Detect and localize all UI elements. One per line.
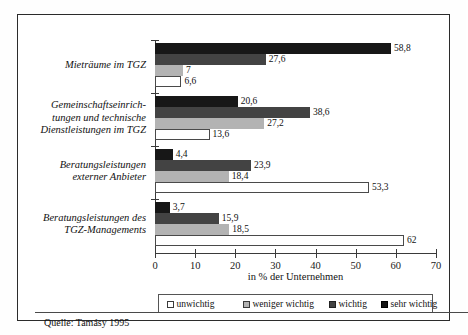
chart-frame: 01020304050607058,827,676,6Mieträume im … bbox=[17, 14, 450, 321]
x-axis-tick bbox=[155, 249, 156, 258]
source-note: Quelle: Tamásy 1995 bbox=[44, 317, 129, 328]
x-axis-tick bbox=[356, 249, 357, 258]
bar-value-label: 13,6 bbox=[213, 129, 230, 140]
x-axis-tick bbox=[235, 249, 236, 258]
bar-sehr-wichtig bbox=[155, 202, 170, 213]
category-label-line: TGZ-Managements bbox=[22, 224, 146, 237]
bar-wichtig bbox=[155, 54, 266, 65]
legend-swatch-icon bbox=[243, 301, 250, 308]
x-axis-tick bbox=[275, 249, 276, 258]
x-axis-tick bbox=[316, 249, 317, 258]
bar-value-label: 7 bbox=[186, 65, 191, 76]
legend-item-wichtig[interactable]: wichtig bbox=[329, 298, 367, 310]
category-label: Beratungsleistungen desTGZ-Managements bbox=[22, 212, 146, 237]
bar-weniger-wichtig bbox=[155, 118, 264, 129]
category-label-line: Dienstleistungen im TGZ bbox=[22, 124, 146, 137]
source-divider bbox=[35, 312, 468, 313]
x-axis-tick-label: 50 bbox=[341, 260, 371, 271]
category-label: Mieträume im TGZ bbox=[22, 59, 146, 72]
legend-item-unwichtig[interactable]: unwichtig bbox=[167, 298, 215, 310]
bar-sehr-wichtig bbox=[155, 96, 238, 107]
bar-value-label: 18,5 bbox=[232, 224, 249, 235]
bar-value-label: 62 bbox=[407, 235, 417, 246]
legend-label: wichtig bbox=[339, 299, 368, 309]
y-axis-tick bbox=[151, 146, 159, 147]
category-label-line: Mieträume im TGZ bbox=[22, 59, 146, 72]
legend-swatch-icon bbox=[381, 301, 388, 308]
x-axis-title: in % der Unternehmen bbox=[155, 271, 436, 282]
bar-value-label: 38,6 bbox=[313, 107, 330, 118]
legend-label: weniger wichtig bbox=[253, 299, 314, 309]
bar-value-label: 18,4 bbox=[232, 171, 249, 182]
y-axis-tick bbox=[151, 40, 159, 41]
bar-unwichtig bbox=[155, 235, 404, 246]
category-label-line: externer Anbieter bbox=[22, 171, 146, 184]
legend-item-weniger-wichtig[interactable]: weniger wichtig bbox=[243, 298, 314, 310]
bar-sehr-wichtig bbox=[155, 149, 173, 160]
y-axis-tick bbox=[151, 199, 159, 200]
bar-unwichtig bbox=[155, 76, 181, 87]
x-axis-tick-label: 30 bbox=[260, 260, 290, 271]
bar-value-label: 53,3 bbox=[372, 182, 389, 193]
legend-label: unwichtig bbox=[177, 299, 215, 309]
x-axis-line bbox=[155, 253, 437, 254]
bar-value-label: 23,9 bbox=[254, 160, 271, 171]
bar-value-label: 27,6 bbox=[269, 54, 286, 65]
x-axis-tick bbox=[195, 249, 196, 258]
x-axis-tick bbox=[436, 249, 437, 258]
chart-legend: unwichtigweniger wichtigwichtigsehr wich… bbox=[158, 294, 433, 313]
bar-sehr-wichtig bbox=[155, 43, 391, 54]
bar-unwichtig bbox=[155, 129, 210, 140]
plot-area: 01020304050607058,827,676,6Mieträume im … bbox=[155, 41, 436, 254]
legend-swatch-icon bbox=[167, 301, 174, 308]
bar-value-label: 3,7 bbox=[173, 202, 185, 213]
bar-value-label: 58,8 bbox=[394, 43, 411, 54]
x-axis-tick-label: 10 bbox=[180, 260, 210, 271]
x-axis-tick-label: 0 bbox=[140, 260, 170, 271]
bar-value-label: 15,9 bbox=[222, 213, 239, 224]
category-label-line: Gemeinschaftseinrich- bbox=[22, 99, 146, 112]
category-label: Gemeinschaftseinrich-tungen und technisc… bbox=[22, 99, 146, 137]
y-axis-tick bbox=[151, 93, 159, 94]
x-axis-tick-label: 60 bbox=[381, 260, 411, 271]
legend-label: sehr wichtig bbox=[391, 299, 438, 309]
category-label: Beratungsleistungenexterner Anbieter bbox=[22, 159, 146, 184]
bar-value-label: 4,4 bbox=[176, 149, 188, 160]
legend-swatch-icon bbox=[329, 301, 336, 308]
x-axis-tick-label: 40 bbox=[301, 260, 331, 271]
x-axis-tick-label: 70 bbox=[421, 260, 451, 271]
legend-item-sehr-wichtig[interactable]: sehr wichtig bbox=[381, 298, 437, 310]
bar-wichtig bbox=[155, 213, 219, 224]
bar-weniger-wichtig bbox=[155, 171, 229, 182]
bar-weniger-wichtig bbox=[155, 65, 183, 76]
bar-value-label: 20,6 bbox=[241, 96, 258, 107]
bar-unwichtig bbox=[155, 182, 369, 193]
bar-wichtig bbox=[155, 160, 251, 171]
category-label-line: Beratungsleistungen des bbox=[22, 212, 146, 225]
bar-wichtig bbox=[155, 107, 310, 118]
category-label-line: tungen und technische bbox=[22, 112, 146, 125]
bar-weniger-wichtig bbox=[155, 224, 229, 235]
x-axis-tick-label: 20 bbox=[220, 260, 250, 271]
bar-value-label: 6,6 bbox=[184, 76, 196, 87]
bar-value-label: 27,2 bbox=[267, 118, 284, 129]
x-axis-tick bbox=[396, 249, 397, 258]
category-label-line: Beratungsleistungen bbox=[22, 159, 146, 172]
